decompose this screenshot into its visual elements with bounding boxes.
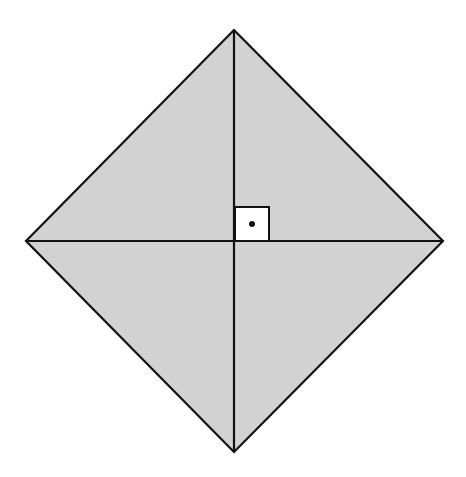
diagram-canvas <box>0 0 466 477</box>
right-angle-dot-icon <box>249 221 255 227</box>
